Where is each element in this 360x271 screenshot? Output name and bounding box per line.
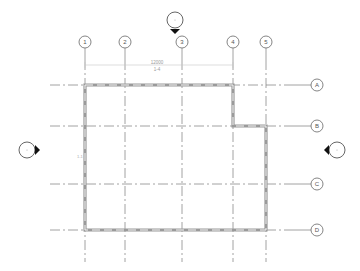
- elevation-marker-north[interactable]: [167, 12, 183, 34]
- dimension-value: 12000: [151, 60, 164, 65]
- grid-rows: A B C D: [50, 79, 323, 236]
- grid-bubble-label: D: [315, 227, 320, 233]
- grid-bubble-label: B: [315, 123, 319, 129]
- grid-bubble-label: C: [315, 181, 320, 187]
- grid-bubble-label: A: [315, 82, 319, 88]
- elevation-arrow-left-icon: [324, 145, 329, 155]
- elevation-marker-west[interactable]: [19, 142, 40, 158]
- elevation-center-dot: [336, 149, 337, 150]
- grid-row-b[interactable]: B: [50, 120, 323, 132]
- grid-column-4[interactable]: 4: [227, 36, 239, 262]
- dimension-annotation[interactable]: 12000 1-4: [85, 60, 233, 72]
- elevation-arrow-down-icon: [170, 29, 180, 34]
- floor-plan-canvas: 1 2 3 4 5: [0, 0, 360, 271]
- elevation-center-dot: [26, 149, 27, 150]
- wall-core-line: [85, 85, 266, 230]
- grid-columns: 1 2 3 4 5: [79, 36, 272, 262]
- elevation-arrow-right-icon: [35, 145, 40, 155]
- wall-outline[interactable]: [85, 85, 266, 230]
- grid-column-3[interactable]: 3: [176, 36, 188, 262]
- dimension-sub-label: 1-4: [154, 67, 161, 72]
- elevation-marker-east[interactable]: [324, 142, 345, 158]
- elevation-center-dot: [174, 19, 175, 20]
- wall-tag: 1-1: [77, 154, 84, 159]
- building-walls[interactable]: [85, 85, 266, 230]
- grid-column-2[interactable]: 2: [119, 36, 131, 262]
- grid-row-c[interactable]: C: [50, 178, 323, 190]
